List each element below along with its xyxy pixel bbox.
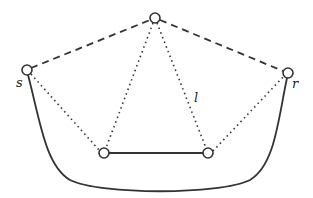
node-s	[22, 65, 32, 75]
edge-top-r	[160, 20, 283, 71]
edge-top-bottomright	[157, 23, 206, 148]
edge-s-r-curve	[28, 75, 287, 191]
graph-canvas	[0, 0, 313, 198]
label-r: r	[292, 77, 298, 90]
edge-s-top	[31, 20, 150, 68]
label-l: l	[194, 91, 198, 104]
graph-diagram: s r l	[0, 0, 313, 198]
label-s: s	[16, 76, 23, 89]
node-top	[150, 13, 160, 23]
node-bottom-left	[99, 148, 109, 158]
edge-top-bottomleft	[106, 23, 153, 148]
edge-s-bottomleft	[31, 74, 99, 150]
node-bottom-right	[203, 148, 213, 158]
